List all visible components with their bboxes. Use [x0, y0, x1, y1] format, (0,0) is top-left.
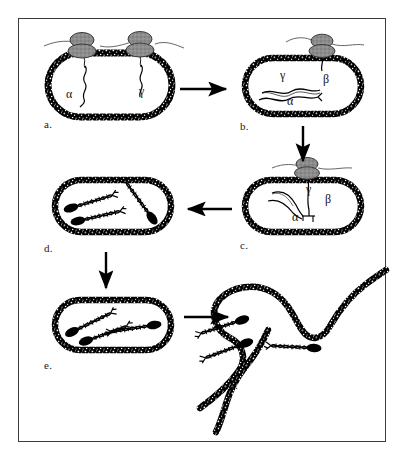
phage-particle	[309, 34, 335, 57]
panel-d	[55, 175, 171, 232]
panel-label-e: e.	[44, 359, 52, 371]
fiber-c-2	[318, 168, 352, 169]
fiber-a-2	[100, 42, 132, 47]
greek-label-alpha-a: α	[66, 87, 72, 102]
panel-label-b: b.	[240, 120, 249, 132]
figure-root: a. b. c. d. e. f. α γ β γ α β γ α	[0, 0, 409, 469]
panel-a	[44, 32, 184, 118]
panel-e	[55, 300, 171, 350]
panel-label-c: c.	[240, 239, 248, 251]
greek-label-gamma-a: γ	[139, 84, 144, 99]
panel-label-a: a.	[44, 118, 52, 130]
panel-c	[245, 158, 361, 233]
panel-f	[193, 270, 386, 432]
greek-label-beta-c: β	[325, 192, 331, 207]
greek-label-gamma-b: γ	[280, 68, 285, 83]
recombinant-duplex	[264, 341, 322, 352]
fiber-b-2	[332, 44, 364, 46]
panel-label-d: d.	[44, 242, 53, 254]
greek-label-beta-b: β	[323, 72, 329, 87]
phage-particle	[295, 158, 320, 180]
cell-b	[245, 58, 361, 114]
greek-label-alpha-c: α	[292, 210, 298, 225]
panel-label-f: f.	[231, 379, 238, 391]
fiber-b-1	[286, 38, 314, 42]
panel-b	[245, 34, 364, 114]
cell-c	[245, 180, 361, 232]
figure-canvas	[0, 0, 409, 469]
fiber-a-3	[155, 43, 184, 48]
greek-label-alpha-b: α	[287, 94, 293, 109]
cell-a	[48, 53, 172, 117]
greek-label-gamma-c: γ	[306, 182, 311, 197]
